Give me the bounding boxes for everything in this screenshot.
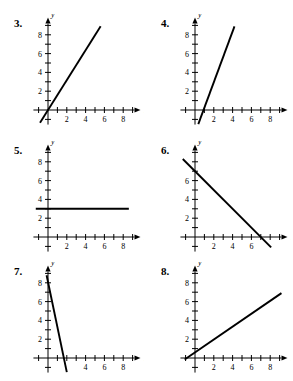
- x-tick-label: 6: [249, 242, 253, 251]
- x-tick-label: 2: [212, 242, 216, 251]
- x-tick-label: 8: [268, 363, 272, 372]
- plotted-line: [185, 293, 282, 359]
- x-tick-label: 2: [65, 242, 69, 251]
- y-tick-label: 4: [185, 316, 189, 325]
- coordinate-plane: 24682468xy: [173, 14, 291, 132]
- coordinate-plane: 24682468xy: [26, 14, 144, 132]
- x-tick-label: 2: [65, 115, 69, 124]
- y-axis-arrowhead: [45, 266, 50, 272]
- x-tick-label: 4: [231, 242, 235, 251]
- x-axis-label: x: [143, 354, 144, 363]
- y-tick-label: 2: [185, 214, 189, 223]
- problem-8: 8.24682468xy: [147, 256, 293, 381]
- y-tick-label: 2: [38, 87, 42, 96]
- x-tick-label: 6: [102, 242, 106, 251]
- x-tick-label: 4: [84, 242, 88, 251]
- y-axis-arrowhead: [192, 266, 197, 272]
- y-tick-label: 8: [38, 279, 42, 288]
- y-tick-label: 6: [38, 177, 42, 186]
- y-tick-label: 2: [38, 335, 42, 344]
- y-axis-label: y: [50, 14, 55, 19]
- problem-7: 7.4682468xy: [0, 256, 146, 381]
- x-tick-label: 8: [121, 115, 125, 124]
- exercise-sheet: 3.24682468xy4.24682468xy5.24682468xy6.24…: [0, 0, 293, 381]
- x-tick-label: 8: [268, 115, 272, 124]
- x-axis-label: x: [290, 106, 291, 115]
- y-tick-label: 4: [38, 195, 42, 204]
- problem-number: 5.: [14, 145, 22, 156]
- x-tick-label: 6: [249, 363, 253, 372]
- y-axis-label: y: [197, 262, 202, 267]
- y-tick-label: 2: [38, 214, 42, 223]
- x-axis-arrowhead: [134, 355, 140, 360]
- y-tick-label: 6: [185, 177, 189, 186]
- x-axis-label: x: [143, 106, 144, 115]
- y-axis-label: y: [197, 141, 202, 146]
- x-tick-label: 4: [84, 363, 88, 372]
- y-axis-arrowhead: [45, 18, 50, 24]
- plotted-line: [183, 159, 271, 247]
- y-tick-label: 8: [185, 279, 189, 288]
- y-axis-label: y: [50, 262, 55, 267]
- problem-6: 6.246246xy: [147, 135, 293, 262]
- problem-3: 3.24682468xy: [0, 8, 146, 135]
- problem-number: 8.: [161, 266, 169, 277]
- y-axis-label: y: [197, 14, 202, 19]
- x-tick-label: 2: [212, 115, 216, 124]
- x-tick-label: 6: [102, 115, 106, 124]
- x-tick-label: 8: [121, 242, 125, 251]
- problem-5: 5.24682468xy: [0, 135, 146, 262]
- y-tick-label: 2: [185, 335, 189, 344]
- x-axis-arrowhead: [281, 234, 287, 239]
- coordinate-plane: 24682468xy: [26, 141, 144, 259]
- y-tick-label: 8: [185, 31, 189, 40]
- y-tick-label: 6: [185, 50, 189, 59]
- problem-number: 7.: [14, 266, 22, 277]
- y-axis-arrowhead: [192, 18, 197, 24]
- y-tick-label: 4: [185, 68, 189, 77]
- y-tick-label: 8: [38, 158, 42, 167]
- y-axis-arrowhead: [45, 145, 50, 151]
- x-axis-label: x: [143, 233, 144, 242]
- y-tick-label: 2: [185, 87, 189, 96]
- y-tick-label: 6: [38, 298, 42, 307]
- problem-4: 4.24682468xy: [147, 8, 293, 135]
- x-axis-arrowhead: [281, 107, 287, 112]
- coordinate-plane: 4682468xy: [26, 262, 144, 380]
- y-axis-arrowhead: [192, 145, 197, 151]
- problem-number: 4.: [161, 18, 169, 29]
- x-tick-label: 4: [231, 115, 235, 124]
- x-axis-arrowhead: [281, 355, 287, 360]
- y-tick-label: 8: [38, 31, 42, 40]
- y-tick-label: 6: [185, 298, 189, 307]
- x-axis-label: x: [290, 233, 291, 242]
- x-axis-arrowhead: [134, 234, 140, 239]
- x-axis-label: x: [290, 354, 291, 363]
- x-tick-label: 8: [121, 363, 125, 372]
- y-tick-label: 4: [38, 316, 42, 325]
- x-tick-label: 4: [231, 363, 235, 372]
- coordinate-plane: 24682468xy: [173, 262, 291, 380]
- plotted-line: [198, 26, 234, 124]
- y-tick-label: 6: [38, 50, 42, 59]
- x-tick-label: 4: [84, 115, 88, 124]
- y-tick-label: 4: [185, 195, 189, 204]
- plotted-line: [40, 26, 101, 122]
- y-axis-label: y: [50, 141, 55, 146]
- x-tick-label: 2: [212, 363, 216, 372]
- x-axis-arrowhead: [134, 107, 140, 112]
- problem-number: 3.: [14, 18, 22, 29]
- y-tick-label: 4: [38, 68, 42, 77]
- coordinate-plane: 246246xy: [173, 141, 291, 259]
- x-tick-label: 6: [249, 115, 253, 124]
- problem-number: 6.: [161, 145, 169, 156]
- x-tick-label: 6: [102, 363, 106, 372]
